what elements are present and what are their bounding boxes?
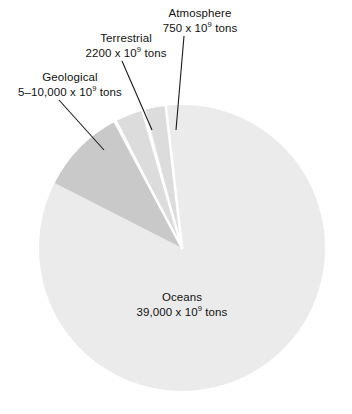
- slice-label-atmosphere-name: Atmosphere: [150, 6, 250, 21]
- slice-label-geological-value: 5–10,000 x 109 tons: [8, 85, 132, 100]
- slice-label-geological: Geological 5–10,000 x 109 tons: [8, 70, 132, 99]
- pie-chart-figure: Atmosphere 750 x 109 tons Terrestrial 22…: [0, 0, 352, 414]
- slice-label-geological-name: Geological: [8, 70, 132, 85]
- slice-label-terrestrial-name: Terrestrial: [74, 31, 178, 46]
- slice-label-oceans-name: Oceans: [118, 290, 246, 305]
- slice-label-terrestrial: Terrestrial 2200 x 109 tons: [74, 31, 178, 60]
- slice-label-oceans-value: 39,000 x 109 tons: [118, 305, 246, 320]
- slice-label-terrestrial-value: 2200 x 109 tons: [74, 46, 178, 61]
- slice-label-oceans: Oceans 39,000 x 109 tons: [118, 290, 246, 319]
- leader-line-geological: [59, 100, 104, 150]
- pie-chart-svg: [0, 0, 352, 414]
- pie-slices: [39, 105, 325, 391]
